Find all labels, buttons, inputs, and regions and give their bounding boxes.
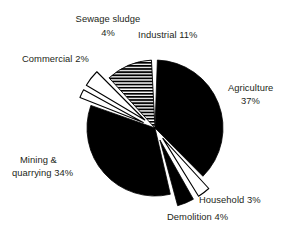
label-demolition: Demolition 4%: [167, 211, 228, 222]
label-industrial: Industrial 11%: [138, 29, 197, 40]
label-household: Household 3%: [199, 194, 261, 205]
label-agriculture-line2: 37%: [241, 95, 260, 106]
label-mining-line2: quarrying 34%: [12, 167, 73, 178]
label-mining-line1: Mining &: [20, 154, 58, 165]
label-commercial: Commercial 2%: [22, 53, 89, 64]
pie-chart-figure: Sewage sludge 4% Industrial 11% Commerci…: [0, 0, 293, 236]
label-sewage-sludge-line1: Sewage sludge: [76, 13, 141, 24]
pie-chart-svg: Sewage sludge 4% Industrial 11% Commerci…: [0, 0, 293, 236]
label-agriculture-line1: Agriculture: [228, 82, 273, 93]
label-sewage-sludge-line2: 4%: [101, 27, 115, 38]
